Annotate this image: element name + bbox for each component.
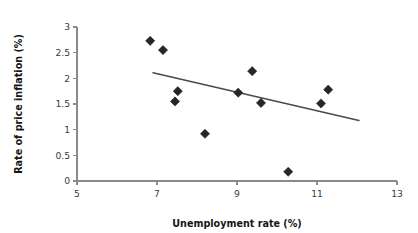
chart-canvas: 00.511.522.535791113Unemployment rate (%… <box>0 0 418 233</box>
data-point-5[interactable] <box>234 88 243 97</box>
data-point-9[interactable] <box>316 99 325 108</box>
y-tick-label-6: 3 <box>64 21 70 32</box>
data-point-7[interactable] <box>256 98 265 107</box>
y-tick-label-3: 1.5 <box>55 98 70 109</box>
scatter-chart: 00.511.522.535791113Unemployment rate (%… <box>0 0 418 233</box>
data-point-3[interactable] <box>170 97 179 106</box>
data-point-1[interactable] <box>158 46 167 55</box>
data-point-4[interactable] <box>200 129 209 138</box>
y-tick-label-0: 0 <box>64 175 70 186</box>
y-axis-title: Rate of price inflation (%) <box>13 34 24 174</box>
y-tick-label-5: 2.5 <box>55 47 70 58</box>
x-tick-label-4: 13 <box>391 188 403 199</box>
y-tick-label-4: 2 <box>64 73 70 84</box>
x-tick-label-2: 9 <box>234 188 240 199</box>
trend-line <box>153 73 359 121</box>
x-tick-label-1: 7 <box>154 188 160 199</box>
x-tick-label-3: 11 <box>311 188 323 199</box>
x-axis-title: Unemployment rate (%) <box>172 218 301 229</box>
data-point-2[interactable] <box>173 87 182 96</box>
data-point-10[interactable] <box>324 85 333 94</box>
data-point-8[interactable] <box>284 167 293 176</box>
y-tick-label-2: 1 <box>64 124 70 135</box>
data-point-6[interactable] <box>248 67 257 76</box>
x-tick-label-0: 5 <box>74 188 80 199</box>
data-point-0[interactable] <box>146 36 155 45</box>
y-tick-label-1: 0.5 <box>55 150 70 161</box>
